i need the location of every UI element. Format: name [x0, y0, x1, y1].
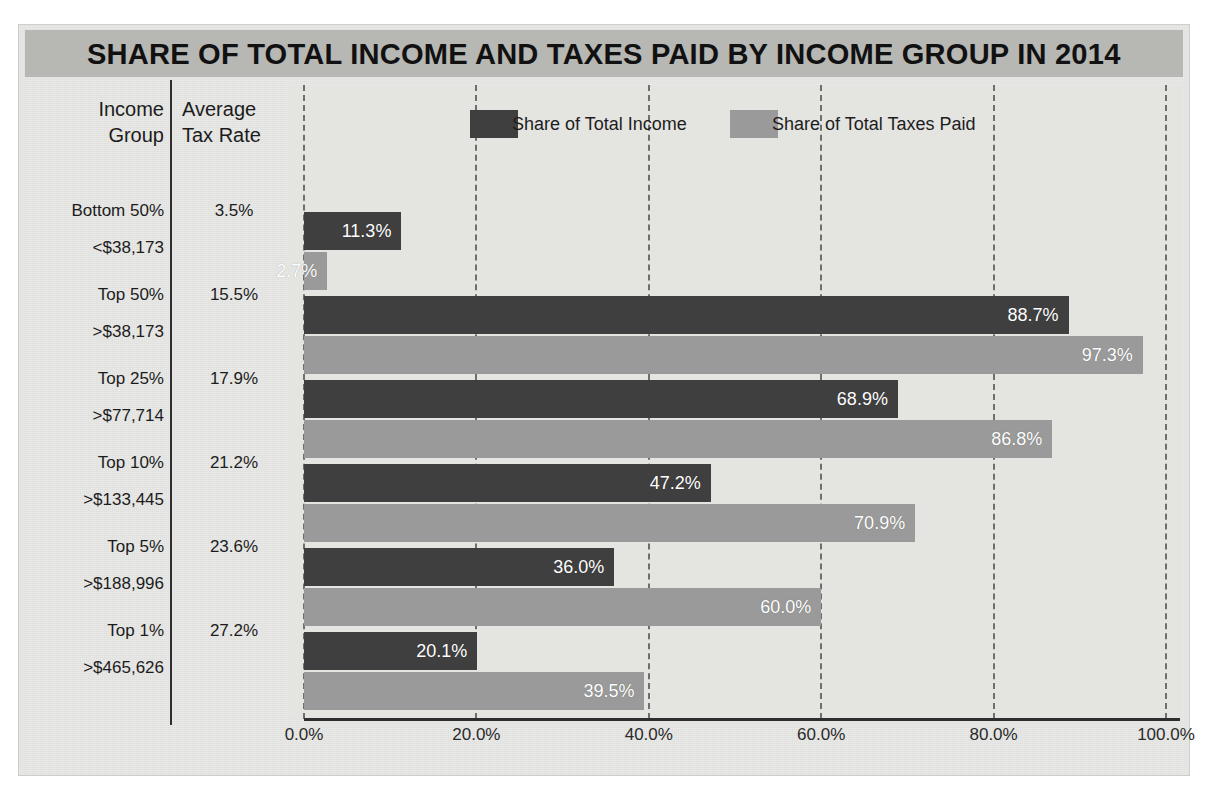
legend-swatch-income: [470, 110, 518, 138]
gridline-100-0%: [1165, 85, 1167, 719]
gridline-80-0%: [993, 85, 995, 719]
x-tick-label: 80.0%: [949, 725, 1039, 745]
row-value-average-tax-rate: 21.2%: [186, 453, 282, 473]
row-label-group: Top 50%: [26, 285, 164, 305]
x-tick-label: 60.0%: [776, 725, 866, 745]
column-header-income-group: Income Group: [26, 96, 164, 148]
row-value-average-tax-rate: 27.2%: [186, 621, 282, 641]
column-header-income-group-line2: Group: [26, 122, 164, 148]
x-tick-label: 100.0%: [1121, 725, 1208, 745]
row-value-average-tax-rate: 17.9%: [186, 369, 282, 389]
bar-value-label: 2.7%: [276, 261, 327, 282]
bar-value-label: 60.0%: [760, 597, 821, 618]
bar-value-label: 36.0%: [553, 557, 614, 578]
row-label-group: Bottom 50%: [26, 201, 164, 221]
column-header-average-tax-rate-line1: Average: [182, 96, 286, 122]
column-header-average-tax-rate: Average Tax Rate: [182, 96, 286, 148]
x-tick-label: 0.0%: [259, 725, 349, 745]
bar-top-50--taxes: 97.3%: [304, 336, 1143, 374]
bar-bottom-50--taxes: 2.7%: [304, 252, 327, 290]
bar-value-label: 47.2%: [650, 473, 711, 494]
legend-label-income: Share of Total Income: [512, 114, 687, 135]
legend-label-taxes: Share of Total Taxes Paid: [772, 114, 975, 135]
bar-top-1--taxes: 39.5%: [304, 672, 644, 710]
row-label-income-threshold: >$77,714: [26, 406, 164, 426]
scanned-page: SHARE OF TOTAL INCOME AND TAXES PAID BY …: [0, 0, 1208, 794]
row-label-income-threshold: >$465,626: [26, 658, 164, 678]
column-header-average-tax-rate-line2: Tax Rate: [182, 122, 286, 148]
row-label-group: Top 1%: [26, 621, 164, 641]
x-tick-label: 20.0%: [431, 725, 521, 745]
bar-bottom-50--income: 11.3%: [304, 212, 401, 250]
bar-value-label: 39.5%: [583, 681, 644, 702]
bar-value-label: 70.9%: [854, 513, 915, 534]
bar-top-25--taxes: 86.8%: [304, 420, 1052, 458]
bar-top-5--taxes: 60.0%: [304, 588, 821, 626]
chart-title: SHARE OF TOTAL INCOME AND TAXES PAID BY …: [87, 37, 1121, 71]
bar-top-10--income: 47.2%: [304, 464, 711, 502]
legend-swatch-taxes: [730, 110, 778, 138]
row-label-income-threshold: <$38,173: [26, 238, 164, 258]
bar-value-label: 20.1%: [416, 641, 477, 662]
row-label-income-threshold: >$38,173: [26, 322, 164, 342]
bar-value-label: 88.7%: [1008, 305, 1069, 326]
row-value-average-tax-rate: 15.5%: [186, 285, 282, 305]
bar-top-25--income: 68.9%: [304, 380, 898, 418]
row-label-group: Top 5%: [26, 537, 164, 557]
row-label-group: Top 25%: [26, 369, 164, 389]
plot-area: Share of Total Income Share of Total Tax…: [290, 85, 1180, 719]
row-label-income-threshold: >$188,996: [26, 574, 164, 594]
row-label-income-threshold: >$133,445: [26, 490, 164, 510]
x-tick-label: 40.0%: [604, 725, 694, 745]
table-column-divider: [170, 80, 172, 725]
bar-value-label: 97.3%: [1082, 345, 1143, 366]
chart-title-bar: SHARE OF TOTAL INCOME AND TAXES PAID BY …: [25, 30, 1183, 77]
x-axis-line: [304, 718, 1180, 721]
bar-top-1--income: 20.1%: [304, 632, 477, 670]
bar-top-5--income: 36.0%: [304, 548, 614, 586]
bar-value-label: 86.8%: [991, 429, 1052, 450]
column-header-income-group-line1: Income: [26, 96, 164, 122]
bar-value-label: 68.9%: [837, 389, 898, 410]
bar-value-label: 11.3%: [342, 221, 402, 242]
row-value-average-tax-rate: 3.5%: [186, 201, 282, 221]
bar-top-50--income: 88.7%: [304, 296, 1069, 334]
row-value-average-tax-rate: 23.6%: [186, 537, 282, 557]
bar-top-10--taxes: 70.9%: [304, 504, 915, 542]
row-label-group: Top 10%: [26, 453, 164, 473]
